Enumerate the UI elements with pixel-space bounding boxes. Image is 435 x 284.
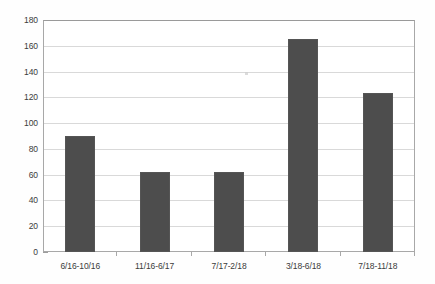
x-tick-slot: 7/17-2/18 [192,252,266,282]
bar-chart-figure: 020406080100120140160180 6/16-10/1611/16… [0,0,435,284]
x-tick-label: 3/18-6/18 [266,262,340,271]
x-tick-slot: 3/18-6/18 [266,252,340,282]
y-tick-label: 80 [14,145,38,154]
x-tick-label: 7/18-11/18 [341,262,415,271]
y-tick-label: 160 [14,42,38,51]
bars-layer [43,20,415,252]
x-tick-slot: 7/18-11/18 [341,252,415,282]
bar [363,93,393,252]
x-tick-mark [414,252,415,256]
y-tick-label: 0 [14,248,38,257]
y-tick-label: 60 [14,170,38,179]
y-tick-label: 140 [14,67,38,76]
bar [65,136,95,252]
x-tick-label: 6/16-10/16 [43,262,117,271]
bar-slot [43,20,117,252]
y-tick-label: 180 [14,16,38,25]
y-tick-label: 40 [14,196,38,205]
bar [288,39,318,252]
bar-slot [192,20,266,252]
y-tick-label: 120 [14,93,38,102]
scan-artifact-speck [245,72,248,75]
x-axis: 6/16-10/1611/16-6/177/17-2/183/18-6/187/… [43,252,415,282]
bar [214,172,244,252]
x-tick-label: 7/17-2/18 [192,262,266,271]
x-tick-slot: 6/16-10/16 [43,252,117,282]
y-tick-label: 20 [14,222,38,231]
y-tick-label: 100 [14,119,38,128]
y-axis: 020406080100120140160180 [8,20,38,252]
bar-slot [117,20,191,252]
bar [140,172,170,252]
x-tick-slot: 11/16-6/17 [117,252,191,282]
x-tick-label: 11/16-6/17 [117,262,191,271]
bar-slot [266,20,340,252]
bar-slot [341,20,415,252]
